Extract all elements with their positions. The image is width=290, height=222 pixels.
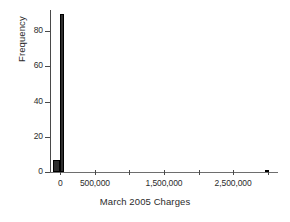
histogram-bar — [53, 160, 60, 172]
y-tick-mark — [45, 137, 50, 138]
y-tick-mark — [45, 172, 50, 173]
x-axis-title: March 2005 Charges — [0, 196, 290, 207]
y-tick-label: 40 — [34, 96, 43, 106]
x-tick-label: 1,500,000 — [146, 178, 183, 188]
x-tick-label: 2,500,000 — [215, 178, 252, 188]
x-tick-mark — [199, 170, 200, 175]
x-tick-label: 0 — [58, 178, 63, 188]
y-tick-mark — [45, 31, 50, 32]
x-tick-mark — [95, 170, 96, 175]
x-tick-label: 500,000 — [80, 178, 110, 188]
y-tick-mark — [45, 66, 50, 67]
x-tick-mark — [164, 170, 165, 175]
histogram-chart: 020406080 0500,0001,500,0002,500,000 Fre… — [0, 0, 290, 222]
y-tick-label: 80 — [34, 25, 43, 35]
y-tick-label: 0 — [38, 166, 43, 176]
x-tick-mark — [233, 170, 234, 175]
y-tick-mark — [45, 102, 50, 103]
y-tick-label: 20 — [34, 131, 43, 141]
histogram-bar — [60, 14, 64, 172]
y-axis-title: Frequency — [16, 16, 27, 62]
y-axis-line — [50, 10, 51, 173]
histogram-bar — [265, 170, 269, 172]
y-tick-label: 60 — [34, 60, 43, 70]
x-tick-mark — [129, 170, 130, 175]
